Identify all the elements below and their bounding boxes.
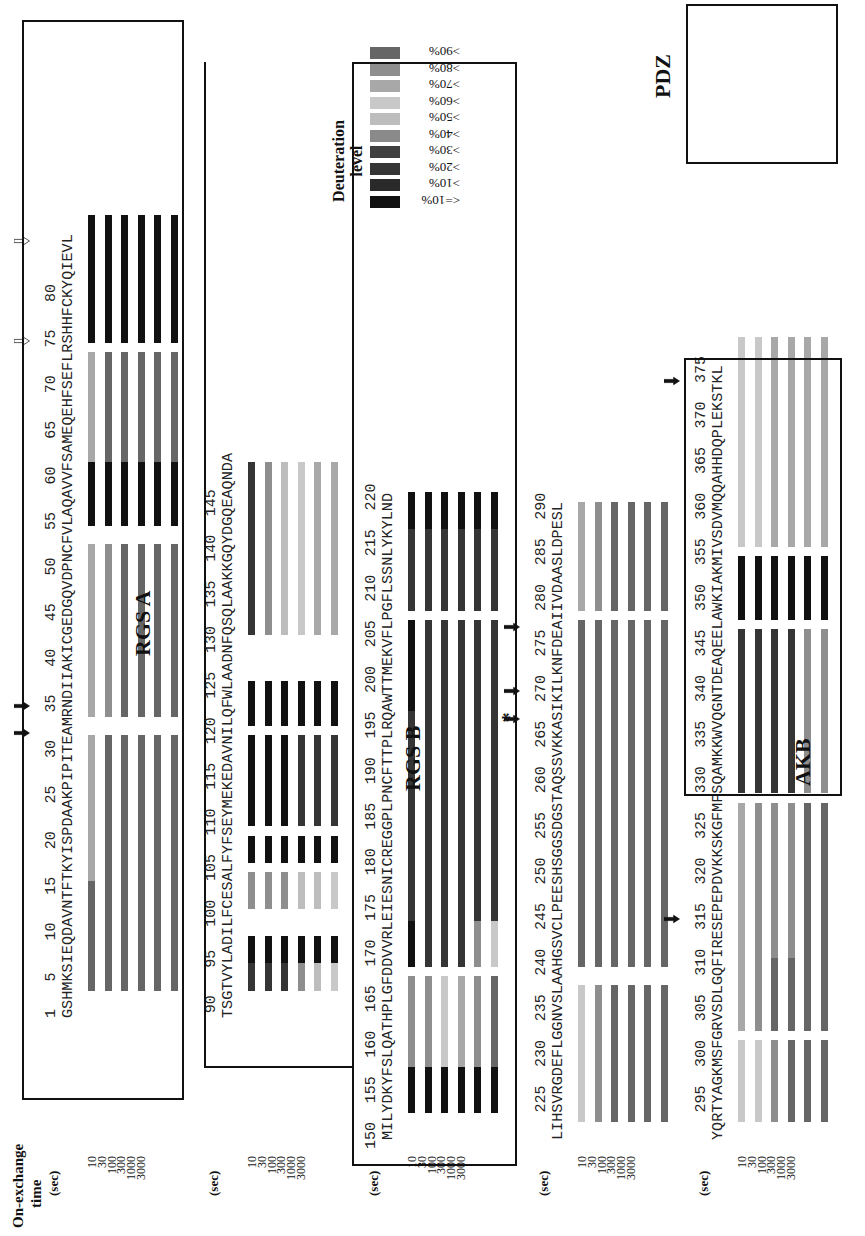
deuteration-bar xyxy=(628,620,635,967)
residue-number: 295 xyxy=(694,1085,710,1112)
legend-swatch xyxy=(370,180,400,192)
legend-swatch xyxy=(370,97,400,109)
rgs-a-domain-label: RGS A xyxy=(130,591,156,656)
time-point-labels: 103010030010003000 xyxy=(88,1156,147,1196)
deuteration-bar xyxy=(644,985,651,1122)
legend-swatch xyxy=(370,130,400,142)
deuteration-bar xyxy=(821,1040,828,1122)
legend-swatch xyxy=(370,81,400,93)
deuteration-bar xyxy=(738,803,745,958)
deuteration-bar xyxy=(644,620,651,967)
deuteration-bar xyxy=(661,502,668,611)
deuteration-bar xyxy=(804,1040,811,1122)
sec-unit-label: (sec) xyxy=(536,1171,552,1196)
legend-label: >30% xyxy=(429,143,460,159)
legend-title-line2: level xyxy=(348,106,366,216)
pdz-domain-label: PDZ xyxy=(650,54,676,98)
deuteration-bar xyxy=(661,985,668,1122)
legend-swatch xyxy=(370,64,400,76)
residue-number: 255 xyxy=(534,812,550,839)
residue-number: 225 xyxy=(534,1085,550,1112)
residue-number: 305 xyxy=(694,994,710,1021)
legend-label: >80% xyxy=(429,60,460,76)
deuteration-bar xyxy=(804,803,811,958)
legend-label: >40% xyxy=(429,126,460,142)
on-exchange-label: On-exchange xyxy=(10,1144,27,1228)
legend-label: >10% xyxy=(429,176,460,192)
legend-label: >20% xyxy=(429,159,460,175)
residue-number: 290 xyxy=(534,493,550,520)
legend-label: >70% xyxy=(429,77,460,93)
deuteration-bar xyxy=(804,958,811,1031)
residue-number: 280 xyxy=(534,584,550,611)
deuteration-bar xyxy=(578,502,585,611)
rgs-b-domain-box-lower xyxy=(352,62,517,1166)
legend-title: Deuteration level xyxy=(330,106,366,216)
legend-swatch xyxy=(370,147,400,159)
residue-number: 285 xyxy=(534,538,550,565)
protein-sequence: LIHSVRGDEFLGGNVSLAAHGSVCLPEESHSGGSDGSTAQ… xyxy=(550,502,566,1140)
sec-unit-label: (sec) xyxy=(206,1171,222,1196)
residue-number: 260 xyxy=(534,766,550,793)
deuteration-bar xyxy=(628,985,635,1122)
deuteration-bar xyxy=(595,620,602,967)
residue-number: 245 xyxy=(534,903,550,930)
legend-title-line1: Deuteration xyxy=(330,106,348,216)
deuteration-bar xyxy=(611,620,618,967)
deuteration-bar xyxy=(788,958,795,1031)
sec-unit-label: (sec) xyxy=(366,1171,382,1196)
time-point-labels: 103010030010003000 xyxy=(738,1156,797,1196)
deuteration-bar xyxy=(611,502,618,611)
pdz-domain-box xyxy=(686,4,838,164)
deuteration-bar xyxy=(611,985,618,1122)
deuteration-bar xyxy=(644,502,651,611)
deuteration-bar xyxy=(771,1040,778,1122)
residue-number: 265 xyxy=(534,721,550,748)
rgs-a-domain-box xyxy=(22,20,184,1100)
residue-number: 325 xyxy=(694,812,710,839)
residue-number: 275 xyxy=(534,629,550,656)
deuteration-bar xyxy=(821,958,828,1031)
deuteration-bar xyxy=(738,1040,745,1122)
time-point-label: 3000 xyxy=(297,1156,307,1196)
deuteration-bar xyxy=(788,803,795,958)
deuteration-bar xyxy=(771,958,778,1031)
filled-arrow-icon xyxy=(664,904,680,934)
figure-canvas: On-exchange time (sec)103010030010003000… xyxy=(0,0,865,1236)
legend-label: >90% xyxy=(429,44,460,60)
deuteration-bar xyxy=(738,958,745,1031)
residue-number: 310 xyxy=(694,949,710,976)
legend-swatch xyxy=(370,196,400,208)
residue-number: 250 xyxy=(534,857,550,884)
residue-number: 315 xyxy=(694,903,710,930)
legend-swatch xyxy=(370,48,400,60)
residue-number: 235 xyxy=(534,994,550,1021)
time-label: time xyxy=(28,1180,45,1208)
deuteration-bar xyxy=(578,985,585,1122)
deuteration-bar xyxy=(578,620,585,967)
legend-label: <=10% xyxy=(422,192,461,208)
legend-label: >50% xyxy=(429,110,460,126)
deuteration-bar xyxy=(755,803,762,958)
residue-number: 320 xyxy=(694,857,710,884)
time-point-label: 3000 xyxy=(627,1156,637,1196)
rgs-b-domain-label: RGS B xyxy=(400,726,426,791)
sec-unit-label: (sec) xyxy=(696,1171,712,1196)
deuteration-bar xyxy=(771,803,778,958)
sec-unit-label: (sec) xyxy=(46,1171,62,1196)
deuteration-bar xyxy=(821,803,828,958)
akb-domain-label: AKB xyxy=(790,738,816,786)
residue-number: 300 xyxy=(694,1040,710,1067)
time-point-labels: 103010030010003000 xyxy=(578,1156,637,1196)
deuteration-bar xyxy=(755,1040,762,1122)
deuteration-bar xyxy=(628,502,635,611)
akb-domain-box xyxy=(684,358,842,796)
deuteration-bar xyxy=(595,502,602,611)
deuteration-bar xyxy=(595,985,602,1122)
legend-label: >60% xyxy=(429,93,460,109)
time-point-label: 3000 xyxy=(787,1156,797,1196)
deuteration-bar xyxy=(755,958,762,1031)
legend-swatch xyxy=(370,114,400,126)
residue-number: 270 xyxy=(534,675,550,702)
residue-number: 240 xyxy=(534,949,550,976)
